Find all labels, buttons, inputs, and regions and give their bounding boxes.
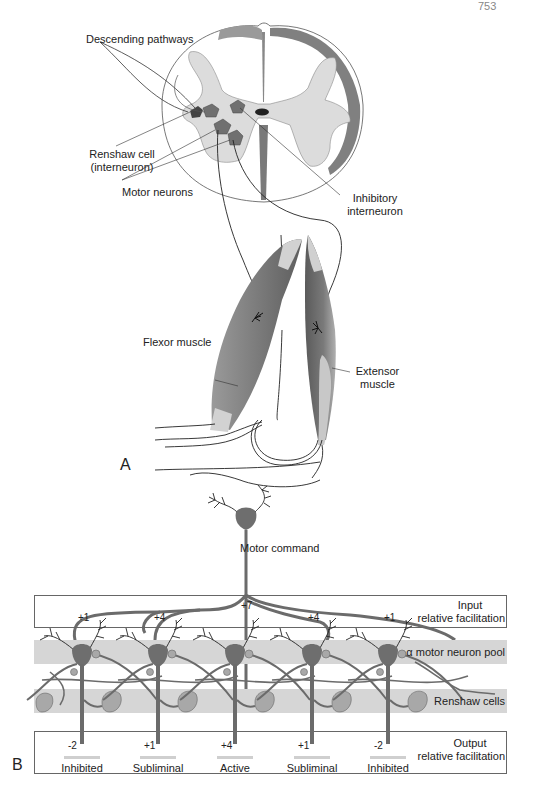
- label-renshaw-cells: Renshaw cells: [420, 695, 505, 708]
- label-motor-neurons: Motor neurons: [122, 186, 193, 199]
- output-facilitation-value: -2: [374, 740, 383, 751]
- synaptic-bouton: [377, 669, 384, 676]
- synaptic-bouton: [301, 669, 308, 676]
- neuron-state-label: Inhibited: [353, 762, 423, 775]
- label-inhibitory-line1: Inhibitory: [340, 192, 410, 205]
- motor-neuron-unit: [103, 618, 238, 759]
- neuron-state-label: Active: [200, 762, 270, 775]
- recurrent-collateral: [314, 700, 332, 707]
- label-extensor-line1: Extensor: [350, 365, 405, 378]
- synaptic-bouton: [71, 669, 78, 676]
- label-renshaw-line2: (interneuron): [82, 161, 162, 174]
- output-bar: [370, 756, 406, 759]
- label-output-facilitation: Output relative facilitation: [405, 737, 505, 763]
- synaptic-bouton: [168, 650, 176, 658]
- label-inhibitory-line2: interneuron: [340, 205, 410, 218]
- neuron-state-label: Subliminal: [277, 762, 347, 775]
- motor-neuron-axon: [156, 664, 160, 744]
- output-bar: [217, 756, 253, 759]
- label-extensor-line2: muscle: [350, 378, 405, 391]
- output-bar: [140, 756, 176, 759]
- synaptic-bouton: [224, 669, 231, 676]
- motor-neuron-axon: [386, 664, 390, 744]
- input-facilitation-value: +4: [308, 612, 319, 623]
- motor-neuron-axon: [310, 664, 314, 744]
- recurrent-collateral: [390, 700, 408, 707]
- synaptic-bouton: [322, 650, 330, 658]
- dendrites: [40, 618, 106, 650]
- label-motor-command: Motor command: [240, 542, 319, 555]
- output-facilitation-value: +4: [221, 740, 232, 751]
- input-facilitation-value: +4: [154, 612, 165, 623]
- recurrent-collateral: [84, 700, 102, 707]
- output-bar: [294, 756, 330, 759]
- output-facilitation-value: +1: [298, 740, 309, 751]
- label-input-line1: Input: [405, 599, 505, 612]
- motor-neuron-pool: [0, 0, 553, 811]
- dendrites: [270, 618, 336, 650]
- motor-neuron-unit: [257, 618, 392, 759]
- input-facilitation-value: +1: [384, 612, 395, 623]
- synaptic-bouton: [92, 650, 100, 658]
- label-descending-pathways: Descending pathways: [86, 33, 194, 46]
- output-facilitation-value: -2: [68, 740, 77, 751]
- label-inhibitory-interneuron: Inhibitory interneuron: [340, 192, 410, 218]
- dendrites: [193, 618, 259, 650]
- page-number: 753: [478, 0, 496, 13]
- neuron-state-label: Subliminal: [123, 762, 193, 775]
- input-facilitation-value: +1: [78, 612, 89, 623]
- dendrites: [116, 618, 182, 650]
- label-input-line2: relative facilitation: [405, 612, 505, 625]
- panel-letter-b: B: [12, 756, 23, 774]
- recurrent-collateral: [237, 700, 255, 707]
- synaptic-bouton: [147, 669, 154, 676]
- motor-neuron-axon: [80, 664, 84, 744]
- label-motor-neuron-pool: α motor neuron pool: [395, 646, 505, 659]
- renshaw-cell: [36, 693, 53, 712]
- label-input-facilitation: Input relative facilitation: [405, 599, 505, 625]
- label-output-line1: Output: [405, 737, 505, 750]
- motor-neuron-unit: [27, 618, 162, 759]
- recurrent-collateral: [160, 700, 178, 707]
- motor-neuron-unit: [180, 618, 315, 759]
- neuron-state-label: Inhibited: [47, 762, 117, 775]
- label-renshaw-line1: Renshaw cell: [82, 148, 162, 161]
- label-renshaw-cell: Renshaw cell (interneuron): [82, 148, 162, 174]
- label-extensor-muscle: Extensor muscle: [350, 365, 405, 391]
- label-flexor-muscle: Flexor muscle: [143, 336, 211, 349]
- panel-letter-a: A: [120, 456, 131, 474]
- output-facilitation-value: +1: [144, 740, 155, 751]
- output-bar: [64, 756, 100, 759]
- input-facilitation-value: +7: [241, 600, 252, 611]
- synaptic-bouton: [245, 650, 253, 658]
- motor-neuron-axon: [233, 664, 237, 744]
